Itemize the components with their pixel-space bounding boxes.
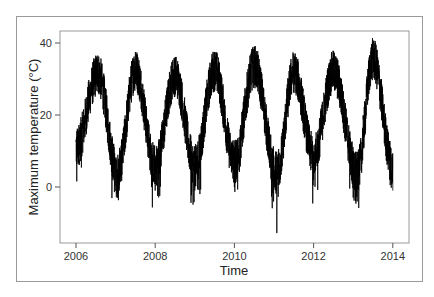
y-axis-title: Maximum temperature (°C) <box>26 59 41 216</box>
x-tick-label: 2014 <box>381 250 405 262</box>
x-tick-label: 2012 <box>301 250 325 262</box>
y-tick-label: 0 <box>46 181 52 193</box>
x-tick-label: 2006 <box>64 250 88 262</box>
x-axis: 20062008201020122014 <box>64 243 405 262</box>
y-tick-label: 40 <box>40 37 52 49</box>
x-tick-label: 2010 <box>222 250 246 262</box>
y-tick-label: 20 <box>40 109 52 121</box>
y-axis: 02040 <box>40 37 60 193</box>
x-axis-title: Time <box>220 263 248 278</box>
temperature-time-series-chart: 02040 20062008201020122014 Time Maximum … <box>0 0 434 297</box>
x-tick-label: 2008 <box>143 250 167 262</box>
